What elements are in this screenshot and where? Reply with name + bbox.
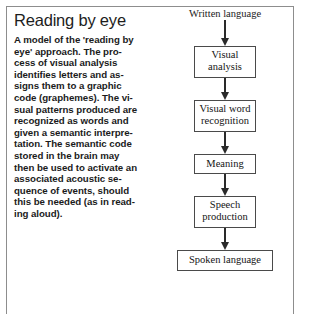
flow-arrow-down-icon [224, 174, 227, 196]
flowchart-sequence: Written language Visual analysis Visual … [160, 8, 290, 271]
flow-step-meaning: Meaning [194, 154, 256, 174]
caption-line: stored in the brain may [14, 150, 142, 162]
arrow-shaft [224, 20, 226, 39]
reading-by-eye-flowchart: Written language Visual analysis Visual … [160, 8, 290, 304]
caption-line: tation. The semantic code [14, 138, 142, 150]
flow-step-line: Speech [195, 199, 255, 211]
caption-line: ing aloud). [14, 208, 142, 220]
figure-caption-body: A model of the 'reading by eye' approach… [14, 34, 142, 220]
caption-line: given a semantic interpre- [14, 127, 142, 139]
caption-line: signs them to a graphic [14, 80, 142, 92]
flow-step-speech-production: Speech production [194, 196, 256, 228]
flow-step-visual-word-recognition: Visual word recognition [194, 100, 256, 132]
caption-line: identifies letters and as- [14, 69, 142, 81]
arrow-shaft [224, 132, 226, 147]
caption-line: recognized as words and [14, 115, 142, 127]
flow-step-line: Visual word [195, 103, 255, 115]
figure-title: Reading by eye [14, 11, 156, 30]
flow-arrow-down-icon [224, 78, 227, 100]
caption-line: A model of the 'reading by [14, 34, 142, 46]
arrow-shaft [224, 174, 226, 189]
figure-text-column: Reading by eye A model of the 'reading b… [14, 11, 156, 220]
flow-step-line: Visual [195, 49, 255, 61]
flow-step-line: recognition [195, 115, 255, 127]
caption-line: quence of events, should [14, 185, 142, 197]
arrow-head [221, 146, 229, 154]
flow-step-spoken-language: Spoken language [177, 250, 273, 271]
caption-line: sual patterns produced are [14, 104, 142, 116]
arrow-shaft [224, 78, 226, 93]
arrow-shaft [224, 228, 226, 243]
flowchart-start-label: Written language [189, 8, 261, 20]
flow-step-line: Meaning [195, 158, 255, 170]
caption-line: then be used to activate an [14, 162, 142, 174]
arrow-head [221, 242, 229, 250]
flow-arrow-down-icon [224, 20, 227, 46]
caption-line: associated acoustic se- [14, 173, 142, 185]
caption-line: cess of visual analysis [14, 57, 142, 69]
caption-line: this be needed (as in read- [14, 196, 142, 208]
flow-step-line: Spoken language [178, 254, 272, 266]
arrow-head [221, 38, 229, 46]
caption-line: eye' approach. The pro- [14, 46, 142, 58]
flow-step-line: production [195, 211, 255, 223]
flow-arrow-down-icon [224, 228, 227, 250]
flow-step-line: analysis [195, 61, 255, 73]
flow-arrow-down-icon [224, 132, 227, 154]
arrow-head [221, 188, 229, 196]
arrow-head [221, 92, 229, 100]
caption-line: code (graphemes). The vi- [14, 92, 142, 104]
flow-step-visual-analysis: Visual analysis [194, 46, 256, 78]
